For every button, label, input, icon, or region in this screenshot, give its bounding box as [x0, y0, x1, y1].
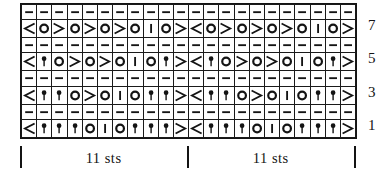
left-dec-icon	[22, 87, 36, 104]
dash-icon	[219, 71, 233, 85]
o-icon	[83, 120, 97, 137]
chart-cell-o	[97, 20, 112, 38]
chart-cell-dash	[310, 71, 325, 86]
chart-cell-bobble	[67, 119, 82, 137]
bar-icon	[265, 120, 279, 137]
chart-cell-right-dec	[340, 53, 355, 71]
chart-cell-right-dec	[340, 20, 355, 38]
dash-icon	[189, 105, 203, 119]
chart-cell-dash	[37, 71, 52, 86]
o-icon	[204, 20, 218, 37]
dash-icon	[37, 5, 51, 19]
chart-cell-bobble	[219, 119, 234, 137]
bar-icon	[144, 20, 158, 37]
dash-icon	[280, 38, 294, 52]
chart-cell-dash	[22, 71, 37, 86]
chart-cell-right-dec	[113, 20, 128, 38]
dash-icon	[295, 38, 309, 52]
right-dec-icon	[250, 20, 264, 37]
chart-cell-right-dec	[249, 86, 264, 104]
dash-icon	[159, 105, 173, 119]
dash-icon	[174, 105, 188, 119]
chart-cell-right-dec	[82, 20, 97, 38]
chart-cell-bar	[295, 53, 310, 71]
chart-cell-dash	[97, 38, 112, 53]
dash-icon	[295, 71, 309, 85]
dash-icon	[68, 105, 82, 119]
chart-cell-dash	[173, 5, 188, 20]
chart-cell-dash	[249, 5, 264, 20]
o-icon	[98, 87, 112, 104]
chart-cell-dash	[158, 71, 173, 86]
chart-cell-dash	[219, 104, 234, 119]
chart-cell-dash	[189, 38, 204, 53]
row-number-1: 1	[368, 118, 376, 133]
chart-cell-dash	[325, 71, 340, 86]
chart-cell-left-dec	[189, 20, 204, 38]
dash-icon	[189, 5, 203, 19]
dash-icon	[204, 71, 218, 85]
chart-cell-left-dec	[189, 53, 204, 71]
right-dec-icon	[174, 53, 188, 70]
bar-icon	[311, 20, 325, 37]
chart-cell-dash	[234, 5, 249, 20]
chart-cell-dash	[173, 71, 188, 86]
chart-purl-row	[22, 71, 356, 86]
chart-cell-dash	[295, 5, 310, 20]
chart-cell-left-dec	[189, 86, 204, 104]
bobble-icon	[204, 87, 218, 104]
left-dec-icon	[189, 53, 203, 70]
chart-cell-dash	[97, 104, 112, 119]
dash-icon	[113, 71, 127, 85]
dash-icon	[326, 38, 340, 52]
chart-cell-o	[295, 20, 310, 38]
chart-cell-dash	[158, 5, 173, 20]
o-icon	[98, 20, 112, 37]
chart-cell-dash	[128, 5, 143, 20]
row-number-7: 7	[368, 18, 376, 33]
chart-cell-dash	[143, 71, 158, 86]
bobble-icon	[235, 120, 249, 137]
chart-cell-bobble	[143, 119, 158, 137]
knitting-chart: 7531 11 sts11 sts	[0, 0, 387, 181]
chart-cell-dash	[37, 5, 52, 20]
chart-cell-bar	[280, 86, 295, 104]
right-dec-icon	[98, 53, 112, 70]
chart-cell-dash	[67, 71, 82, 86]
o-icon	[128, 87, 142, 104]
bobble-icon	[204, 53, 218, 70]
dash-icon	[326, 105, 340, 119]
chart-cell-dash	[22, 5, 37, 20]
chart-cell-o	[265, 86, 280, 104]
bobble-icon	[326, 53, 340, 70]
chart-cell-o	[82, 119, 97, 137]
chart-cell-bobble	[310, 119, 325, 137]
row-number-5: 5	[368, 51, 376, 66]
dash-icon	[341, 5, 355, 19]
chart-cell-dash	[52, 71, 67, 86]
right-dec-icon	[341, 87, 355, 104]
dash-icon	[326, 5, 340, 19]
dash-icon	[265, 71, 279, 85]
bobble-icon	[204, 120, 218, 137]
dash-icon	[144, 38, 158, 52]
dash-icon	[341, 71, 355, 85]
chart-cell-dash	[325, 5, 340, 20]
chart-cell-bar	[97, 119, 112, 137]
right-dec-icon	[83, 87, 97, 104]
right-dec-icon	[235, 53, 249, 70]
left-dec-icon	[189, 20, 203, 37]
chart-pattern-row	[22, 119, 356, 137]
chart-cell-o	[295, 86, 310, 104]
chart-grid-body	[22, 5, 356, 138]
dash-icon	[52, 38, 66, 52]
chart-grid	[20, 3, 357, 139]
dash-icon	[174, 5, 188, 19]
chart-purl-row	[22, 38, 356, 53]
chart-cell-dash	[219, 71, 234, 86]
bar-icon	[128, 53, 142, 70]
right-dec-icon	[341, 120, 355, 137]
dash-icon	[250, 5, 264, 19]
row-number-3: 3	[368, 85, 376, 100]
chart-cell-dash	[340, 71, 355, 86]
